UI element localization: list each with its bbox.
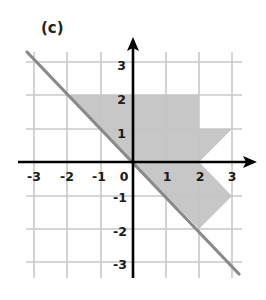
x-tick: 2: [196, 169, 205, 184]
y-tick: 2: [117, 92, 126, 107]
coordinate-plane: -3 -2 -1 0 1 2 3 3 2 1 -1 -2 -3: [0, 0, 266, 300]
x-tick: 1: [163, 169, 172, 184]
x-tick: -2: [60, 169, 74, 184]
y-tick: -1: [113, 190, 127, 205]
y-tick: -3: [113, 257, 127, 272]
y-tick-labels: 3 2 1 -1 -2 -3: [113, 58, 127, 272]
y-tick: 1: [117, 126, 126, 141]
x-tick: -1: [92, 169, 106, 184]
x-tick: -3: [27, 169, 41, 184]
x-tick: 0: [120, 169, 129, 184]
x-tick: 3: [228, 169, 237, 184]
y-tick: 3: [117, 58, 126, 73]
y-tick: -2: [113, 224, 127, 239]
